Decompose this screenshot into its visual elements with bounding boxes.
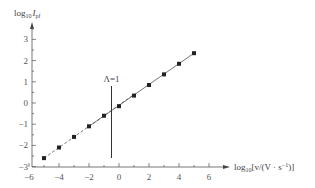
y-tick-label: 0 [24, 98, 29, 108]
data-point [132, 94, 136, 98]
y-axis-label: log10Ipf [14, 8, 41, 19]
data-point [72, 135, 76, 139]
y-tick-label: −1 [18, 119, 28, 129]
x-axis-label: log10[v/(V · s−1)] [234, 162, 294, 173]
y-tick-label: −3 [18, 162, 28, 172]
x-tick-label: −4 [54, 172, 64, 182]
data-point [42, 156, 46, 160]
data-point [147, 83, 151, 87]
x-tick-label: 2 [147, 172, 152, 182]
x-tick-label: −6 [24, 172, 34, 182]
y-tick-label: 1 [24, 77, 29, 87]
x-tick-label: 0 [117, 172, 122, 182]
data-point [117, 104, 121, 108]
data-point [102, 114, 106, 118]
x-axis-arrow-icon [223, 165, 230, 169]
y-tick-label: 2 [24, 56, 29, 66]
lambda-label: Λ=1 [103, 74, 119, 84]
x-tick-label: 4 [177, 172, 182, 182]
y-axis-arrow-icon [30, 22, 34, 29]
data-point [87, 124, 91, 128]
y-tick-label: −2 [18, 140, 28, 150]
x-tick-label: 6 [207, 172, 212, 182]
y-ticks: −3−2−10123 [18, 29, 36, 172]
x-tick-label: −2 [84, 172, 94, 182]
data-point [162, 72, 166, 76]
y-tick-label: 3 [24, 34, 29, 44]
x-ticks: −6−4−20246 [24, 163, 212, 182]
data-point [57, 146, 61, 150]
data-point [177, 62, 181, 66]
chart: −6−4−20246 −3−2−10123 Λ=1 log10Ipf log10… [0, 0, 315, 188]
data-point [192, 51, 196, 55]
